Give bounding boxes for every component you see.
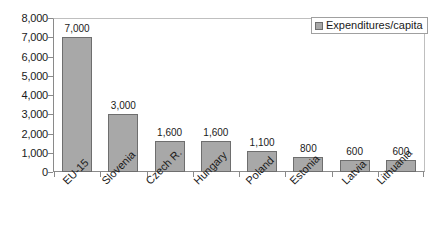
bar[interactable] bbox=[62, 37, 92, 172]
bar-group[interactable]: 600 bbox=[332, 18, 378, 172]
y-tick-label: 5,000 bbox=[21, 70, 48, 81]
bar-value-label: 7,000 bbox=[65, 24, 90, 34]
y-tick-mark bbox=[48, 134, 53, 135]
legend-swatch-expenditures bbox=[315, 22, 323, 30]
y-tick-label: 2,000 bbox=[21, 128, 48, 139]
y-tick-mark bbox=[48, 95, 53, 96]
y-tick-mark bbox=[48, 114, 53, 115]
y-tick-mark bbox=[48, 153, 53, 154]
bar-value-label: 1,600 bbox=[157, 128, 182, 138]
bar-value-label: 1,100 bbox=[250, 138, 275, 148]
y-tick-mark bbox=[48, 76, 53, 77]
bar-value-label: 600 bbox=[346, 147, 363, 157]
bar-group[interactable]: 7,000 bbox=[54, 18, 100, 172]
bar-group[interactable]: 1,600 bbox=[193, 18, 239, 172]
bar-group[interactable]: 800 bbox=[285, 18, 331, 172]
bar-value-label: 3,000 bbox=[111, 101, 136, 111]
y-tick-mark bbox=[48, 57, 53, 58]
y-tick-label: 6,000 bbox=[21, 51, 48, 62]
bar-group[interactable]: 600 bbox=[378, 18, 424, 172]
y-tick-label: 3,000 bbox=[21, 109, 48, 120]
bar-group[interactable]: 3,000 bbox=[100, 18, 146, 172]
x-axis: EU-15SloveniaCzech R.HungaryPolandEstoni… bbox=[54, 177, 424, 231]
bars-layer: 7,0003,0001,6001,6001,100800600600 bbox=[54, 18, 424, 172]
y-tick-label: 7,000 bbox=[21, 32, 48, 43]
bar-chart: 8,0007,0006,0005,0004,0003,0002,0001,000… bbox=[0, 0, 439, 231]
y-tick-label: 8,000 bbox=[21, 13, 48, 24]
y-tick-label: 1,000 bbox=[21, 147, 48, 158]
legend-label-expenditures: Expenditures/capita bbox=[326, 20, 423, 31]
y-tick-mark bbox=[48, 18, 53, 19]
y-tick-mark bbox=[48, 172, 53, 173]
bar-group[interactable]: 1,600 bbox=[147, 18, 193, 172]
chart-legend: Expenditures/capita bbox=[311, 17, 428, 34]
y-axis: 8,0007,0006,0005,0004,0003,0002,0001,000… bbox=[0, 18, 48, 172]
bar-group[interactable]: 1,100 bbox=[239, 18, 285, 172]
bar-value-label: 1,600 bbox=[203, 128, 228, 138]
y-tick-label: 4,000 bbox=[21, 90, 48, 101]
y-tick-mark bbox=[48, 37, 53, 38]
